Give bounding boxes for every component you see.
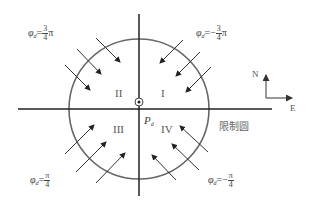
quadrant-label-iii: III <box>113 124 124 135</box>
compass-east-label: E <box>290 104 296 113</box>
quadrant-label-i: I <box>161 88 165 99</box>
compass-icon <box>266 75 292 98</box>
center-label: Pd <box>144 115 154 127</box>
angle-label-q1: φd=−34π <box>196 25 227 42</box>
quadrant-label-ii: II <box>115 88 122 99</box>
restriction-circle-label: 限制圆 <box>219 122 249 132</box>
angle-label-q4: φd=−π4 <box>208 172 234 189</box>
arrows-quadrant-ii <box>65 38 120 90</box>
quadrant-label-iv: IV <box>161 124 173 135</box>
angle-label-q2: φd=34π <box>28 25 53 42</box>
angle-label-q3: φd=π4 <box>30 172 50 189</box>
compass-north-label: N <box>252 70 259 79</box>
arrows-quadrant-i <box>160 40 211 92</box>
